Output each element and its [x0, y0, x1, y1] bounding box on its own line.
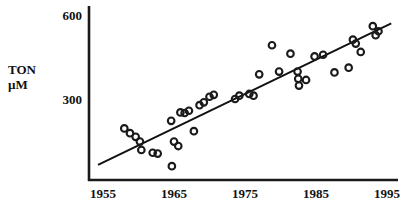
data-points	[121, 23, 382, 170]
data-point	[168, 118, 175, 125]
data-point	[296, 82, 303, 89]
y-axis-label-line-1: TON	[8, 62, 36, 77]
data-point	[320, 51, 327, 58]
data-point	[154, 150, 161, 157]
data-point	[303, 77, 310, 84]
data-point	[191, 128, 198, 135]
data-point	[138, 147, 145, 154]
data-point	[169, 163, 176, 170]
data-point	[331, 69, 338, 76]
x-tick-label-1955: 1955	[78, 186, 128, 202]
data-point	[352, 40, 359, 47]
data-point	[256, 71, 263, 78]
data-point	[186, 107, 193, 114]
x-tick-label-1975: 1975	[220, 186, 270, 202]
x-tick-label-1985: 1985	[291, 186, 341, 202]
y-axis-label: TON µM	[8, 62, 36, 92]
scatter-chart-figure: TON µM 600 300 1955 1965 1975 1985 1995	[0, 0, 410, 214]
data-point	[269, 42, 276, 49]
x-tick-label-1995: 1995	[362, 186, 410, 202]
y-tick-label-600: 600	[44, 8, 82, 24]
x-tick-label-1965: 1965	[149, 186, 199, 202]
data-point	[276, 68, 283, 75]
data-point	[311, 53, 318, 60]
data-point	[345, 64, 352, 71]
data-point	[137, 138, 144, 145]
data-point	[357, 49, 364, 56]
data-point	[201, 99, 208, 106]
data-point	[294, 68, 301, 75]
data-point	[295, 76, 302, 83]
data-point	[375, 28, 382, 35]
y-axis-label-line-2: µM	[8, 77, 36, 92]
data-point	[210, 92, 217, 99]
data-point	[175, 143, 182, 150]
data-point	[287, 50, 294, 57]
data-point	[250, 92, 257, 99]
y-tick-label-300: 300	[44, 92, 82, 108]
